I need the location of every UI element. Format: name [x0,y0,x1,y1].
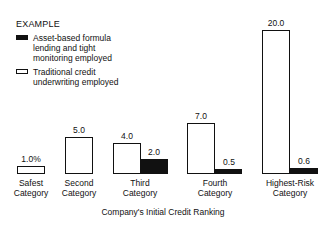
category-label-second: Second Category [44,178,114,198]
white-swatch-icon [16,69,28,74]
category-line: Fourth [180,178,250,188]
legend-label-line: monitoring employed [33,53,112,63]
value-label: 2.0 [134,147,174,157]
value-label: 5.0 [59,125,99,135]
category-label-highest-risk: Highest-Risk Category [255,178,325,198]
category-line: Category [255,188,325,198]
legend-label-line: lending and tight [33,43,112,53]
bar-highest-risk-traditional [262,30,290,174]
bar-safest-traditional [17,166,45,174]
bar-highest-risk-asset-based [290,168,318,174]
category-line: Highest-Risk [255,178,325,188]
bar-fourth-asset-based [215,169,242,174]
x-axis-label: Company's Initial Credit Ranking [0,207,326,217]
value-label: 4.0 [107,131,147,141]
value-label: 0.5 [209,157,249,167]
value-label: 0.6 [284,156,324,166]
category-line: Category [44,188,114,198]
legend-label-line: underwriting employed [33,77,119,87]
bar-second-traditional [65,137,93,174]
legend-title: EXAMPLE [16,19,60,29]
legend-label-line: Traditional credit [33,67,119,77]
value-label: 20.0 [256,18,296,28]
black-swatch-icon [16,35,28,40]
legend-label-line: Asset-based formula [33,33,112,43]
category-label-fourth: Fourth Category [180,178,250,198]
category-line: Second [44,178,114,188]
legend-item-traditional: Traditional credit underwriting employed [16,67,119,87]
bar-third-asset-based [141,159,168,174]
legend-item-asset-based: Asset-based formula lending and tight mo… [16,33,112,63]
category-line: Category [105,188,175,198]
value-label: 1.0% [11,154,51,164]
category-label-third: Third Category [105,178,175,198]
category-line: Category [180,188,250,198]
category-line: Third [105,178,175,188]
value-label: 7.0 [181,111,221,121]
